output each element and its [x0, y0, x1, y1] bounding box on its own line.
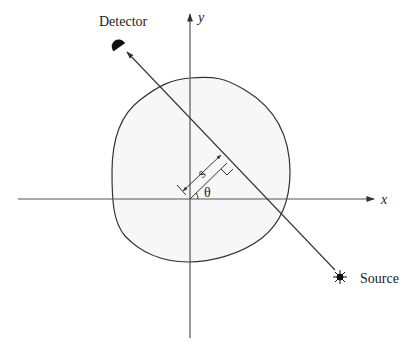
- diagram-svg: Detector Source x y s θ: [0, 0, 417, 354]
- diagram-canvas: Detector Source x y s θ: [0, 0, 417, 354]
- source-icon: [333, 270, 347, 284]
- x-axis-label: x: [380, 192, 388, 207]
- detector-icon: [109, 37, 125, 52]
- y-axis-label: y: [196, 10, 205, 25]
- source-label: Source: [360, 271, 399, 286]
- detector-label: Detector: [99, 14, 148, 29]
- theta-label: θ: [204, 185, 211, 200]
